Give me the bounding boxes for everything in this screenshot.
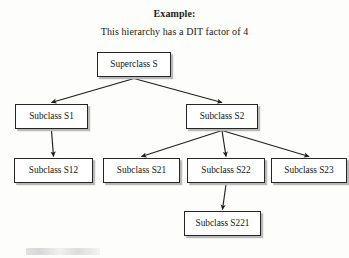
class-node-label: Subclass S23 xyxy=(284,166,333,176)
class-node-label: Subclass S2 xyxy=(200,112,245,122)
class-node-s22: Subclass S22 xyxy=(187,158,265,183)
class-node-s1: Subclass S1 xyxy=(15,104,88,129)
edge-s1-to-s12 xyxy=(52,131,54,157)
edge-s22-to-s221 xyxy=(223,185,227,210)
page-bottom-artifact xyxy=(26,248,100,255)
class-node-label: Subclass S21 xyxy=(117,166,166,176)
edge-s-to-s1 xyxy=(52,79,135,103)
edge-s2-to-s23 xyxy=(222,131,309,157)
page-subtitle: This hierarchy has a DIT factor of 4 xyxy=(0,26,349,37)
class-node-label: Subclass S1 xyxy=(29,112,74,122)
hierarchy-edges xyxy=(0,0,349,258)
class-node-s21: Subclass S21 xyxy=(103,158,180,183)
edge-s2-to-s22 xyxy=(222,131,226,157)
diagram-page: Example: This hierarchy has a DIT factor… xyxy=(0,0,349,258)
class-node-label: Superclass S xyxy=(110,60,157,70)
edge-s2-to-s21 xyxy=(142,131,223,157)
class-node-s: Superclass S xyxy=(97,52,171,77)
class-node-label: Subclass S12 xyxy=(29,166,78,176)
page-title: Example: xyxy=(0,8,349,19)
class-node-label: Subclass S221 xyxy=(196,219,250,229)
class-node-s221: Subclass S221 xyxy=(184,211,261,236)
class-node-s23: Subclass S23 xyxy=(271,158,347,183)
class-node-s2: Subclass S2 xyxy=(186,104,258,129)
edge-s-to-s2 xyxy=(134,79,222,103)
class-node-label: Subclass S22 xyxy=(201,166,250,176)
class-node-s12: Subclass S12 xyxy=(14,158,93,183)
